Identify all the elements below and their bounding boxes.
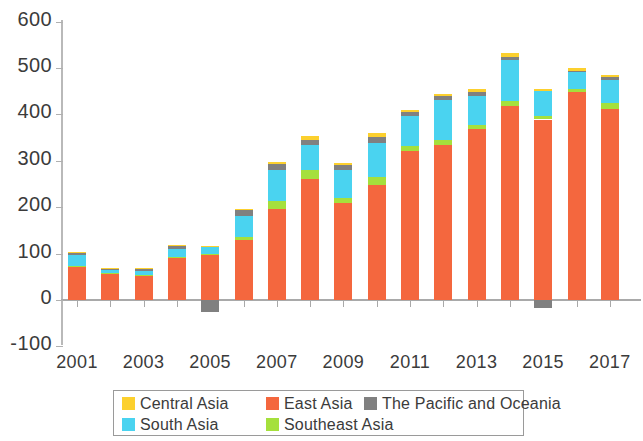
- bar-segment: [301, 145, 319, 171]
- legend-item-the-pacific-and-oceania[interactable]: The Pacific and Oceania: [364, 392, 561, 415]
- bar-segment: [401, 146, 419, 150]
- legend-row-bottom: South AsiaSoutheast Asia: [114, 413, 523, 436]
- y-axis-tick-label: 0: [0, 286, 52, 309]
- bar-segment: [468, 129, 486, 300]
- bar-segment: [301, 136, 319, 140]
- bar-segment: [434, 94, 452, 96]
- bar-segment: [235, 237, 253, 240]
- bar-segment: [434, 96, 452, 100]
- bar-segment: [601, 103, 619, 109]
- x-axis-tick-label: 2003: [123, 352, 165, 373]
- bar-segment: [268, 162, 286, 164]
- bar-2003[interactable]: [135, 16, 153, 346]
- y-axis-tick-label: 600: [0, 8, 52, 31]
- bar-segment: [301, 170, 319, 179]
- bar-segment: [201, 246, 219, 247]
- bar-segment: [168, 246, 186, 249]
- bar-segment: [135, 275, 153, 300]
- bar-2007[interactable]: [268, 16, 286, 346]
- bar-2001[interactable]: [68, 16, 86, 346]
- legend-item-east-asia[interactable]: East Asia: [266, 392, 353, 415]
- bar-segment: [168, 258, 186, 300]
- bar-segment: [68, 252, 86, 253]
- bar-segment: [568, 92, 586, 300]
- bar-segment: [168, 245, 186, 246]
- bar-segment: [101, 268, 119, 269]
- bar-segment: [301, 140, 319, 145]
- legend-swatch-southeast-asia: [266, 418, 279, 431]
- bar-2017[interactable]: [601, 16, 619, 346]
- legend-item-central-asia[interactable]: Central Asia: [122, 392, 229, 415]
- bar-segment: [434, 100, 452, 139]
- bar-segment: [534, 116, 552, 120]
- x-axis-tick-label: 2013: [456, 352, 498, 373]
- bar-segment: [401, 116, 419, 147]
- bar-segment: [268, 201, 286, 208]
- chart-legend: Central AsiaEast AsiaThe Pacific and Oce…: [113, 390, 524, 436]
- bar-segment: [368, 177, 386, 185]
- bar-2004[interactable]: [168, 16, 186, 346]
- bar-segment: [268, 209, 286, 300]
- legend-item-label: Southeast Asia: [284, 416, 394, 434]
- legend-item-label: The Pacific and Oceania: [382, 395, 561, 413]
- y-axis-tick-label: 500: [0, 54, 52, 77]
- bar-2008[interactable]: [301, 16, 319, 346]
- bar-segment: [468, 125, 486, 130]
- bar-segment: [268, 164, 286, 170]
- bar-segment: [268, 170, 286, 202]
- bar-2010[interactable]: [368, 16, 386, 346]
- bar-2013[interactable]: [468, 16, 486, 346]
- bar-segment: [68, 253, 86, 256]
- bar-segment: [68, 267, 86, 300]
- bar-segment: [168, 249, 186, 257]
- legend-swatch-central-asia: [122, 397, 135, 410]
- bar-segment: [201, 255, 219, 300]
- bar-segment: [468, 92, 486, 96]
- bar-segment: [501, 101, 519, 106]
- x-axis-tick-label: 2009: [323, 352, 365, 373]
- bar-2011[interactable]: [401, 16, 419, 346]
- bar-segment: [534, 89, 552, 91]
- x-axis-tick-label: 2011: [390, 352, 430, 373]
- y-axis-tick-label: 100: [0, 240, 52, 263]
- bar-2016[interactable]: [568, 16, 586, 346]
- bar-segment: [368, 137, 386, 143]
- bar-2009[interactable]: [334, 16, 352, 346]
- bar-2002[interactable]: [101, 16, 119, 346]
- bar-segment: [568, 72, 586, 89]
- legend-item-southeast-asia[interactable]: Southeast Asia: [266, 413, 394, 436]
- bar-segment: [468, 89, 486, 92]
- bar-segment: [235, 240, 253, 300]
- bar-segment: [135, 269, 153, 271]
- x-axis-tick-label: 2005: [189, 352, 231, 373]
- bar-segment: [101, 273, 119, 300]
- bar-2006[interactable]: [235, 16, 253, 346]
- bar-segment: [401, 151, 419, 300]
- bar-segment: [68, 255, 86, 266]
- bar-segment: [334, 198, 352, 202]
- bar-segment: [434, 140, 452, 146]
- bar-segment: [501, 60, 519, 101]
- bar-segment: [601, 77, 619, 80]
- y-axis-tick-label: -100: [0, 332, 52, 355]
- bar-2005[interactable]: [201, 16, 219, 346]
- bar-segment: [368, 143, 386, 176]
- bar-segment: [501, 106, 519, 300]
- x-axis-tick-label: 2001: [56, 352, 98, 373]
- bar-2012[interactable]: [434, 16, 452, 346]
- bar-segment: [301, 179, 319, 300]
- bar-2014[interactable]: [501, 16, 519, 346]
- bar-segment: [568, 71, 586, 72]
- bar-segment: [201, 254, 219, 255]
- bar-segment: [368, 133, 386, 136]
- bar-segment: [334, 170, 352, 199]
- bar-segment: [601, 80, 619, 103]
- bar-2015[interactable]: [534, 16, 552, 346]
- legend-item-south-asia[interactable]: South Asia: [122, 413, 219, 436]
- bar-segment: [235, 210, 253, 216]
- bar-segment: [601, 109, 619, 300]
- plot-area: [61, 16, 639, 346]
- bar-segment: [334, 165, 352, 169]
- bar-segment: [168, 257, 186, 258]
- bar-segment: [534, 120, 552, 300]
